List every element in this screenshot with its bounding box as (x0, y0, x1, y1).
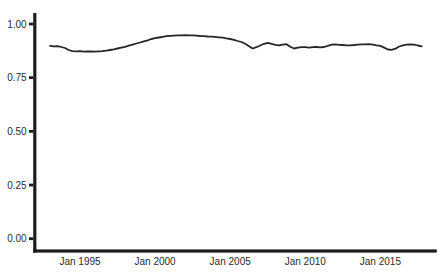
y-tick-label: 0.75 (7, 72, 27, 83)
y-axis-line (33, 13, 36, 253)
x-tick-label: Jan 1995 (59, 256, 101, 267)
line-chart-svg: 0.000.250.500.751.00Jan 1995Jan 2000Jan … (0, 0, 444, 277)
chart-figure: 0.000.250.500.751.00Jan 1995Jan 2000Jan … (0, 0, 444, 277)
x-tick-label: Jan 2005 (210, 256, 252, 267)
y-axis-tick (29, 130, 33, 133)
data-series-line (50, 35, 422, 52)
y-tick-label: 1.00 (7, 19, 27, 30)
y-axis-tick (29, 237, 33, 240)
x-axis-line (33, 249, 437, 252)
x-tick-label: Jan 2015 (360, 256, 402, 267)
x-tick-label: Jan 2000 (135, 256, 177, 267)
y-axis-tick (29, 184, 33, 187)
y-tick-label: 0.50 (7, 126, 27, 137)
y-tick-label: 0.25 (7, 180, 27, 191)
y-axis-tick (29, 23, 33, 26)
x-tick-label: Jan 2010 (285, 256, 327, 267)
y-tick-label: 0.00 (7, 233, 27, 244)
y-axis-tick (29, 76, 33, 79)
